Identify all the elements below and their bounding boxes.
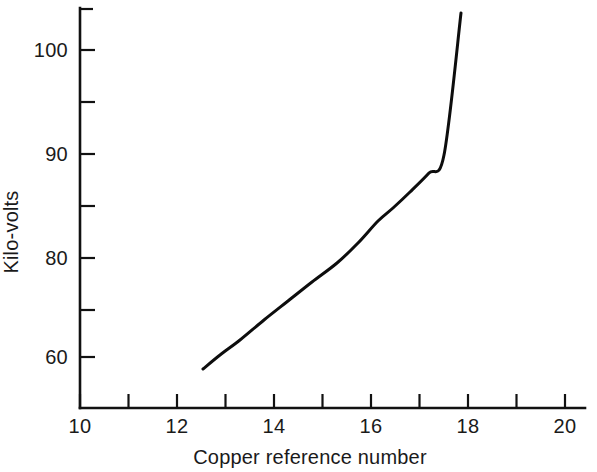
y-tick-label-80: 80 [45,247,68,270]
y-tick-label-90: 90 [45,143,68,166]
y-tick-label-100: 100 [34,39,68,62]
data-curve-kilo-volts [203,13,461,369]
chart-figure: 100 90 80 60 10 12 14 16 18 20 Copper re… [0,0,597,472]
y-axis-title: Kilo-volts [0,190,23,273]
x-tick-label-14: 14 [263,415,286,438]
y-tick-label-60: 60 [45,346,68,369]
x-tick-label-18: 18 [457,415,480,438]
x-tick-label-12: 12 [166,415,189,438]
x-tick-label-10: 10 [69,415,92,438]
x-tick-label-16: 16 [360,415,383,438]
x-axis-title: Copper reference number [193,446,427,469]
x-tick-label-20: 20 [554,415,577,438]
plot-area [0,0,597,472]
